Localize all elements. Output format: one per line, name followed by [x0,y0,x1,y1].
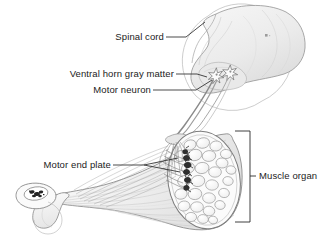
label-spinal-cord: Spinal cord [56,32,164,42]
label-motor-end-plate: Motor end plate [25,160,111,170]
leader-spinal-cord [166,22,205,37]
spinal-cord-segment [182,4,305,111]
label-muscle-organ: Muscle organ [259,171,317,181]
anatomical-figure: Spinal cord Ventral horn gray matter Mot… [0,0,328,243]
label-motor-neuron: Motor neuron [63,85,151,95]
muscle-organ [16,126,247,234]
label-ventral-horn-gray-matter: Ventral horn gray matter [36,69,174,79]
diagram-canvas [0,0,328,243]
